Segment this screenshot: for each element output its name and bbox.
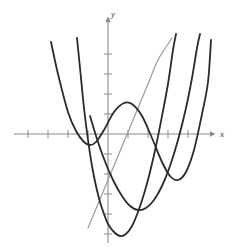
- plot-canvas: x y: [0, 0, 237, 250]
- axes: [14, 21, 211, 243]
- curves: [51, 34, 211, 236]
- curve-cubic-curve: [51, 40, 211, 180]
- x-axis-label: x: [219, 129, 224, 139]
- graph-figure: x y: [0, 0, 237, 250]
- y-axis-label: y: [110, 9, 115, 19]
